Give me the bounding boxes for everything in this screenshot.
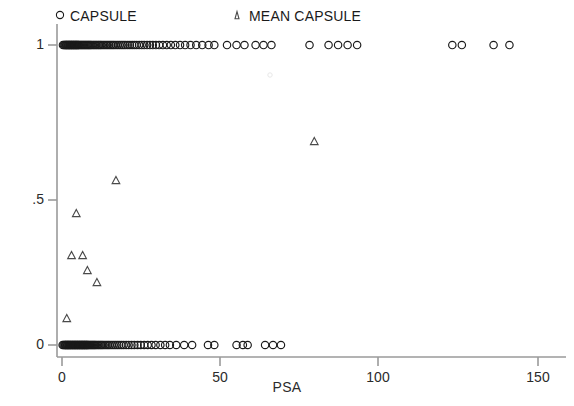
scan-artifact-speck xyxy=(268,73,272,77)
data-point-capsule xyxy=(244,341,251,348)
data-point-capsule xyxy=(211,41,218,48)
data-point-capsule xyxy=(223,41,230,48)
data-point-capsule xyxy=(325,41,332,48)
data-point-capsule xyxy=(506,41,513,48)
legend-label-capsule: CAPSULE xyxy=(70,8,137,24)
x-axis-title: PSA xyxy=(0,379,574,395)
data-point-capsule xyxy=(458,41,465,48)
legend-triangle-marker-icon xyxy=(235,12,239,19)
legend-circle-marker-icon xyxy=(56,11,63,18)
data-point-capsule xyxy=(490,41,497,48)
data-point-capsule xyxy=(277,341,284,348)
data-point-capsule xyxy=(334,41,341,48)
x-axis-ticks xyxy=(62,357,538,366)
data-point-capsule xyxy=(233,41,240,48)
data-point-capsule xyxy=(261,341,268,348)
data-point-capsule xyxy=(180,341,187,348)
data-point-capsule xyxy=(344,41,351,48)
series-capsule-points xyxy=(59,41,513,348)
data-point-capsule xyxy=(449,41,456,48)
y-axis-ticks xyxy=(48,45,57,345)
y-tick-label-0point5: .5 xyxy=(16,191,44,207)
data-point-mean-capsule xyxy=(310,137,318,144)
data-point-capsule xyxy=(269,341,276,348)
plot-canvas xyxy=(0,0,574,406)
data-point-capsule xyxy=(268,41,275,48)
data-point-mean-capsule xyxy=(84,266,92,273)
data-point-capsule xyxy=(252,41,259,48)
data-point-capsule xyxy=(306,41,313,48)
y-tick-label-1: 1 xyxy=(16,36,44,52)
data-point-mean-capsule xyxy=(68,251,76,258)
scatter-plot-figure: CAPSULE MEAN CAPSULE 1 .5 0 0 50 100 150… xyxy=(0,0,574,406)
y-tick-label-0: 0 xyxy=(16,336,44,352)
data-point-capsule xyxy=(260,41,267,48)
data-point-mean-capsule xyxy=(93,278,101,285)
data-point-capsule xyxy=(188,341,195,348)
data-point-mean-capsule xyxy=(72,209,80,216)
series-mean-capsule-points xyxy=(63,137,318,321)
data-point-capsule xyxy=(241,41,248,48)
data-point-mean-capsule xyxy=(112,176,120,183)
legend-label-mean-capsule: MEAN CAPSULE xyxy=(249,8,361,24)
data-point-mean-capsule xyxy=(79,251,87,258)
data-point-capsule xyxy=(353,41,360,48)
data-point-mean-capsule xyxy=(63,314,71,321)
